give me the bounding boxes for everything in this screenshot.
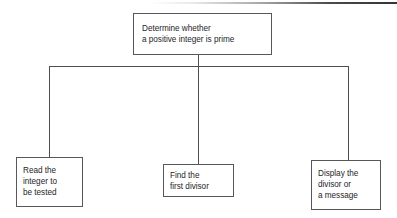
connector-bus-to-left-child	[49, 66, 50, 157]
node-find-divisor[interactable]: Find the first divisor	[163, 164, 234, 197]
structure-chart-diagram: Determine whether a positive integer is …	[0, 0, 397, 218]
connector-horizontal-bus	[49, 66, 349, 67]
node-determine-prime[interactable]: Determine whether a positive integer is …	[133, 13, 272, 55]
node-determine-prime-label: Determine whether a positive integer is …	[142, 23, 234, 45]
node-find-divisor-label: Find the first divisor	[170, 169, 209, 191]
connector-bus-to-right-child	[348, 66, 349, 160]
node-read-integer-label: Read the integer to be tested	[23, 165, 57, 199]
connector-root-to-middle	[198, 55, 199, 164]
node-display-result[interactable]: Display the divisor or a message	[311, 160, 381, 210]
node-read-integer[interactable]: Read the integer to be tested	[16, 157, 83, 207]
node-display-result-label: Display the divisor or a message	[318, 168, 358, 202]
page-edge-rule	[150, 2, 397, 4]
